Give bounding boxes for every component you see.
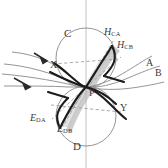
label-center-point-p: P — [89, 88, 95, 98]
label-streamline-b: B — [155, 68, 162, 78]
label-hca-subscript: CA — [111, 30, 120, 37]
label-eda-subscript: DA — [36, 116, 46, 123]
label-separatrix-edb: EDB — [57, 124, 72, 134]
label-edb-subscript: DB — [63, 127, 72, 134]
label-node-y: Y — [120, 103, 127, 113]
label-separatrix-hca: HCA — [104, 27, 121, 37]
label-circle-c: C — [64, 28, 71, 39]
label-separatrix-eda: EDA — [30, 113, 46, 123]
upper-inflow-arrow — [34, 53, 47, 64]
streamline-incoming-4 — [4, 86, 86, 87]
physics-flow-diagram: C D P X Y A B HCA HCB EDA EDB — [0, 0, 168, 168]
streamline-incoming-3 — [2, 74, 86, 87]
label-circle-d: D — [73, 141, 81, 152]
label-streamline-a: A — [146, 58, 153, 68]
label-hcb-subscript: CB — [124, 43, 133, 50]
label-node-x: X — [50, 60, 57, 70]
label-separatrix-hcb: HCB — [117, 40, 133, 50]
diagram-canvas — [0, 0, 168, 168]
streamline-incoming-1 — [12, 52, 86, 87]
lower-inflow-arrow — [14, 78, 30, 90]
